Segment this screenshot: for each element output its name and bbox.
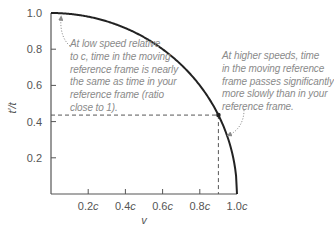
y-tick-label: 0.6	[27, 79, 42, 91]
highlight-point	[216, 113, 221, 118]
annotation-arrow-low-speed	[61, 18, 70, 46]
y-tick-label: 0.8	[27, 43, 42, 55]
y-axis-label: t′/t	[6, 101, 18, 113]
x-tick-label: 0.6c	[152, 200, 173, 212]
x-tick-label: 0.8c	[189, 200, 210, 212]
y-tick-label: 0.4	[27, 116, 42, 128]
y-tick-label: 1.0	[27, 7, 42, 19]
x-tick-label: 0.4c	[115, 200, 136, 212]
annotation-high-speed: At higher speeds, time in the moving ref…	[222, 50, 334, 114]
x-axis-label: v	[141, 214, 148, 226]
y-tick-label: 0.2	[27, 152, 42, 164]
dashed-guides	[51, 115, 218, 194]
x-tick-label: 1.0c	[227, 200, 248, 212]
x-tick-label: 0.2c	[78, 200, 99, 212]
x-ticks: 0.2c0.4c0.6c0.8c1.0c	[78, 189, 248, 212]
annotation-low-speed: At low speed relative to c, time in the …	[70, 38, 178, 115]
y-ticks: 0.20.40.60.81.0	[27, 7, 56, 164]
